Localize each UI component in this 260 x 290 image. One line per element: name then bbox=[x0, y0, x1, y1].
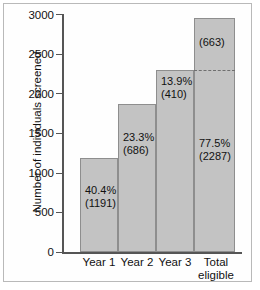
annotation-year1-count: (1191) bbox=[85, 197, 116, 210]
y-tick-label-3000: 3000 bbox=[18, 10, 54, 21]
annotation-year3-percent: 13.9% bbox=[161, 75, 192, 88]
annotation-total-main: 77.5% (2287) bbox=[199, 137, 231, 162]
reference-line-2287 bbox=[194, 70, 235, 71]
bar-year2[interactable] bbox=[118, 104, 156, 252]
x-tick-label-year2: Year 2 bbox=[117, 256, 157, 269]
x-tick-label-year3: Year 3 bbox=[155, 256, 195, 269]
y-tick-label-1500: 1500 bbox=[18, 128, 54, 139]
y-tick-label-500: 500 bbox=[18, 207, 54, 218]
x-axis-line bbox=[62, 252, 242, 254]
y-tick-label-1000: 1000 bbox=[18, 168, 54, 179]
bar-total[interactable] bbox=[194, 18, 235, 252]
x-tick-label-total-line2: eligible bbox=[194, 269, 238, 282]
annotation-year1-percent: 40.4% bbox=[85, 184, 116, 197]
annotation-year3: 13.9% (410) bbox=[161, 75, 192, 100]
y-tick-label-0: 0 bbox=[18, 247, 54, 258]
annotation-year1: 40.4% (1191) bbox=[85, 184, 116, 209]
y-axis-line bbox=[62, 14, 64, 253]
annotation-total-percent: 77.5% bbox=[199, 137, 231, 150]
x-tick-label-total: Total eligible bbox=[194, 256, 238, 281]
annotation-total-count: (2287) bbox=[199, 150, 231, 163]
annotation-year2-percent: 23.3% bbox=[123, 131, 154, 144]
y-tick-label-2500: 2500 bbox=[18, 49, 54, 60]
annotation-total-top: (663) bbox=[199, 36, 225, 49]
bar-chart: Number of individuals screened 3000 2500… bbox=[0, 0, 260, 290]
y-tick-label-2000: 2000 bbox=[18, 89, 54, 100]
annotation-total-top-count: (663) bbox=[199, 36, 225, 49]
x-tick-label-year1: Year 1 bbox=[79, 256, 119, 269]
annotation-year2: 23.3% (686) bbox=[123, 131, 154, 156]
x-tick-label-total-line1: Total bbox=[194, 256, 238, 269]
annotation-year3-count: (410) bbox=[161, 88, 192, 101]
annotation-year2-count: (686) bbox=[123, 144, 154, 157]
